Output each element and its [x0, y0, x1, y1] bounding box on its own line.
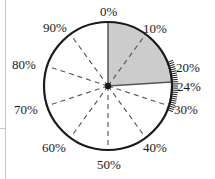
percent-label-20: 20%	[176, 61, 200, 74]
radial-gridline-90	[70, 34, 108, 86]
figure-canvas: 0%10%20%24%30%40%50%60%70%80%90%	[0, 0, 215, 179]
percent-label-0: 0%	[100, 5, 117, 18]
radial-gridline-30	[108, 86, 169, 106]
radial-gridline-70	[47, 86, 108, 106]
left-margin-rule	[5, 0, 6, 179]
percent-label-24: 24%	[177, 80, 201, 93]
percent-label-70: 70%	[14, 103, 38, 116]
percent-label-30: 30%	[174, 103, 198, 116]
percent-label-80: 80%	[12, 58, 36, 71]
percent-label-10: 10%	[143, 22, 167, 35]
left-crop-mark	[0, 128, 6, 129]
radial-gridline-40	[108, 86, 146, 138]
percent-label-90: 90%	[43, 21, 67, 34]
radial-gridline-80	[47, 66, 108, 86]
percent-label-50: 50%	[97, 158, 121, 171]
percent-label-40: 40%	[143, 141, 167, 154]
radial-gridline-60	[70, 86, 108, 138]
percent-label-60: 60%	[42, 141, 66, 154]
center-point	[105, 83, 111, 89]
